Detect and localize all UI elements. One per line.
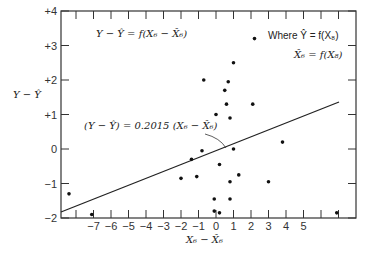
x-tick-label: −5 (122, 220, 135, 232)
x-tick-label: 4 (283, 220, 289, 232)
x-tick-label: −1 (192, 220, 205, 232)
y-tick-label: +2 (44, 74, 57, 86)
data-point (223, 89, 227, 93)
y-tick-label: +3 (44, 40, 57, 52)
scatter-chart: −7−6−5−4−3−2−1012345+4+3+2+10−1−2 Y − Ŷ … (0, 0, 366, 260)
x-tick-label: −6 (105, 220, 118, 232)
regression-line (61, 102, 339, 212)
annotation-regression: (Y − Ŷ) = 0.2015 (X₆ − X̂₆) (84, 120, 218, 131)
annotation-where: Where Ŷ = f(X₈) (268, 29, 339, 41)
data-point (232, 61, 236, 65)
data-point (253, 37, 257, 41)
data-point (237, 173, 241, 177)
x-tick-label: 1 (230, 220, 236, 232)
data-point (228, 197, 232, 201)
data-point (251, 102, 255, 106)
chart-labels: Y − Ŷ = f(X₆ − X̂₆)Where Ŷ = f(X₈)X̂₆ = … (13, 28, 343, 245)
data-point (218, 211, 222, 215)
plot-frame (61, 11, 356, 218)
data-point (212, 197, 216, 201)
x-tick-label: 2 (248, 220, 254, 232)
data-point (67, 192, 71, 196)
data-point (228, 180, 232, 184)
x-tick-label: −4 (140, 220, 153, 232)
y-tick-label: −1 (44, 178, 57, 190)
data-point (281, 140, 285, 144)
x-tick-label: 0 (213, 220, 219, 232)
data-point (179, 177, 183, 181)
y-axis-label: Y − Ŷ (13, 89, 42, 100)
annotation-top-left: Y − Ŷ = f(X₆ − X̂₆) (96, 28, 187, 39)
x-tick-label: 5 (300, 220, 306, 232)
data-point (218, 163, 222, 167)
data-point (195, 175, 199, 179)
annotation-arrow (205, 134, 226, 148)
x-tick-label: −3 (157, 220, 170, 232)
data-point (200, 149, 204, 153)
y-tick-label: +4 (44, 5, 57, 17)
data-point (214, 113, 218, 117)
x-tick-label: 3 (265, 220, 271, 232)
x-axis-label: X₆ − X̂₆ (185, 234, 223, 245)
x-tick-label: −2 (175, 220, 188, 232)
data-point (212, 209, 216, 213)
data-point (226, 80, 230, 84)
y-tick-label: 0 (51, 143, 57, 155)
data-point (90, 213, 94, 217)
data-point (202, 78, 206, 82)
plot-border (61, 11, 356, 218)
data-point (190, 158, 194, 162)
regression-line (61, 102, 339, 212)
data-point (335, 211, 339, 215)
annotation-x6hat: X̂₆ = f(X₈) (293, 49, 343, 60)
data-point (232, 147, 236, 151)
data-point (228, 116, 232, 120)
data-point (225, 102, 229, 106)
y-tick-label: +1 (44, 109, 57, 121)
data-point (267, 180, 271, 184)
x-tick-label: −7 (87, 220, 100, 232)
y-tick-label: −2 (44, 212, 57, 224)
